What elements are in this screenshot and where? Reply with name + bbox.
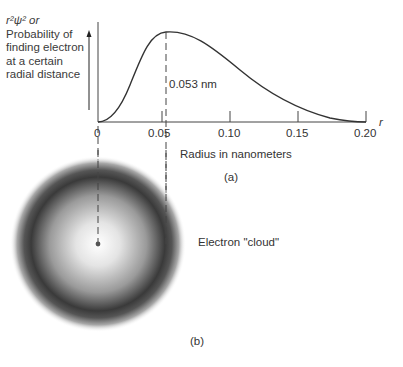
x-tick-4: 0.20 <box>354 127 376 139</box>
panel-a-label: (a) <box>224 171 238 183</box>
probability-curve <box>98 32 366 122</box>
peak-annotation: 0.053 nm <box>169 78 217 90</box>
x-tick-2: 0.10 <box>218 127 240 139</box>
x-tick-3: 0.15 <box>286 127 308 139</box>
x-tick-1: 0.05 <box>148 127 170 139</box>
y-axis-arrow-icon <box>87 30 92 110</box>
panel-b-label: (b) <box>190 335 204 347</box>
x-tick-0: 0 <box>94 127 100 139</box>
x-ticks <box>162 111 366 122</box>
diagram-canvas <box>0 0 403 367</box>
x-axis-label: Radius in nanometers <box>180 148 292 160</box>
nucleus-dot <box>96 242 101 247</box>
cloud-label: Electron "cloud" <box>198 236 279 248</box>
x-axis-symbol: r <box>379 116 383 128</box>
